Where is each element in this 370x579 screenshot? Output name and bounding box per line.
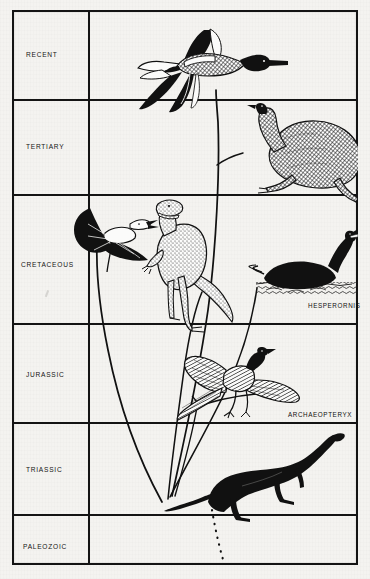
lineage-branch-pterosaur xyxy=(97,242,162,502)
taxon-label-archaeopteryx: ARCHAEOPTERYX xyxy=(288,411,352,418)
row-label-paleozoic: PALEOZOIC xyxy=(23,543,67,550)
evolution-timeline-chart: RECENT TERTIARY CRETACEOUS JURASSIC TRIA… xyxy=(12,10,358,565)
taxon-label-hesperornis: HESPERORNIS xyxy=(308,302,360,309)
illustration-flying-duck xyxy=(138,29,288,112)
illustration-pteranodon xyxy=(74,208,159,272)
figure-artwork xyxy=(12,10,358,565)
illustration-prosauropod xyxy=(164,433,345,522)
row-label-tertiary: TERTIARY xyxy=(26,143,64,150)
illustration-hesperornis xyxy=(249,229,358,296)
lineage-branch-moa xyxy=(217,153,243,165)
row-label-recent: RECENT xyxy=(26,51,58,58)
lineage-lines xyxy=(97,90,257,502)
illustration-moa xyxy=(247,103,358,205)
row-label-jurassic: JURASSIC xyxy=(26,371,65,378)
row-label-triassic: TRIASSIC xyxy=(26,466,62,473)
lineage-root-dotted xyxy=(212,510,224,563)
illustration-tyrannosaur xyxy=(142,200,233,332)
row-label-cretaceous: CRETACEOUS xyxy=(21,261,74,268)
